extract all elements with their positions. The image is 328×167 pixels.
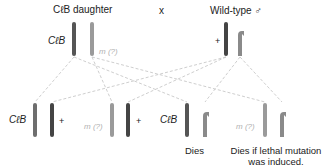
offspring4-m-chromosome bbox=[263, 103, 267, 137]
female-clb-label: CℓB bbox=[48, 35, 65, 46]
female-m-label: m (?) bbox=[99, 47, 118, 56]
offspring2-x-chromosome bbox=[126, 103, 130, 137]
female-m-chromosome bbox=[90, 22, 94, 56]
offspring1-label: CℓB bbox=[9, 114, 26, 125]
line-male-x-to-offspring1 bbox=[52, 57, 226, 102]
female-parent-title: CℓB daughter bbox=[53, 4, 112, 15]
male-parent-title: Wild-type ♂ bbox=[210, 5, 262, 16]
offspring2-plus: + bbox=[136, 116, 141, 126]
line-female-clb-to-offspring1 bbox=[35, 57, 74, 102]
offspring4-outcome: Dies if lethal mutation was induced. bbox=[221, 145, 328, 167]
offspring4-label: m (?) bbox=[236, 122, 255, 131]
offspring3-label: CℓB bbox=[160, 114, 177, 125]
offspring2-m-chromosome bbox=[110, 103, 114, 137]
offspring1-clb-chromosome bbox=[33, 103, 37, 137]
inheritance-lines bbox=[0, 0, 328, 167]
offspring1-plus: + bbox=[59, 116, 64, 126]
male-x-chromosome bbox=[224, 22, 228, 56]
offspring2-label: m (?) bbox=[84, 122, 103, 131]
line-female-m-to-offspring4 bbox=[92, 57, 265, 102]
offspring4-outcome-line2: was induced. bbox=[221, 156, 328, 167]
female-clb-chromosome bbox=[72, 22, 76, 56]
line-male-y-to-offspring4 bbox=[240, 57, 282, 102]
line-female-clb-to-offspring3 bbox=[74, 57, 187, 102]
offspring3-clb-chromosome bbox=[185, 103, 189, 137]
offspring3-outcome: Dies bbox=[185, 145, 204, 156]
offspring4-outcome-line1: Dies if lethal mutation bbox=[221, 145, 328, 156]
offspring1-x-chromosome bbox=[50, 103, 54, 137]
line-female-m-to-offspring2 bbox=[92, 57, 112, 102]
cross-symbol: x bbox=[159, 5, 164, 16]
offspring3-y-chromosome bbox=[203, 112, 209, 137]
male-plus-label: + bbox=[215, 36, 220, 46]
female-genotype: CℓB daughter bbox=[53, 4, 112, 15]
offspring4-y-chromosome bbox=[280, 112, 286, 137]
male-y-chromosome bbox=[238, 31, 244, 56]
